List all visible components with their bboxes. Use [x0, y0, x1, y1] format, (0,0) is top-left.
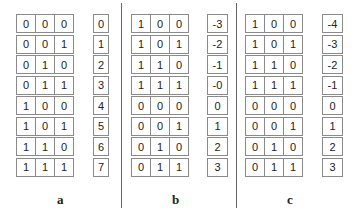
bit-row: 001 — [16, 35, 74, 54]
bit-cell: 0 — [169, 14, 189, 33]
bit-cell: 1 — [54, 158, 74, 177]
bit-cell: 1 — [283, 158, 303, 177]
value-box: 3 — [93, 76, 109, 95]
bit-row: 111 — [245, 76, 303, 95]
bit-cell: 0 — [264, 96, 283, 115]
bit-cell: 1 — [150, 137, 169, 156]
bit-cell: 1 — [264, 55, 283, 74]
bit-row: 000 — [16, 14, 74, 33]
bit-cell: 0 — [16, 35, 35, 54]
bit-cell: 1 — [16, 137, 35, 156]
bit-cell: 0 — [150, 14, 169, 33]
bit-row: 101 — [131, 35, 189, 54]
bit-cell: 0 — [283, 14, 303, 33]
bit-cell: 1 — [54, 35, 74, 54]
panel-label-c: c — [287, 192, 293, 208]
bit-cell: 1 — [264, 158, 283, 177]
bit-cell: 1 — [245, 35, 264, 54]
value-box: 5 — [93, 117, 109, 136]
bit-cell: 0 — [35, 14, 54, 33]
value-box: 3 — [322, 158, 343, 177]
value-box: 2 — [93, 55, 109, 74]
panel-label-a: a — [57, 192, 64, 208]
bit-row: 010 — [245, 137, 303, 156]
panel-label-b: b — [172, 192, 179, 208]
bit-row: 110 — [131, 55, 189, 74]
bit-cell: 0 — [169, 96, 189, 115]
divider-b-c — [236, 3, 237, 208]
value-box: 1 — [93, 35, 109, 54]
bit-cell: 0 — [54, 55, 74, 74]
bit-cell: 1 — [131, 14, 150, 33]
bit-row: 011 — [131, 158, 189, 177]
bit-cell: 0 — [169, 137, 189, 156]
bit-cell: 1 — [54, 76, 74, 95]
value-box: -1 — [322, 76, 343, 95]
bit-row: 001 — [131, 117, 189, 136]
bit-cell: 1 — [245, 14, 264, 33]
value-box: -2 — [322, 55, 343, 74]
bit-cell: 1 — [131, 76, 150, 95]
bit-cell: 1 — [150, 158, 169, 177]
bit-cell: 0 — [131, 158, 150, 177]
bit-grid-a: 000001010011100101110111 — [16, 14, 74, 178]
bit-cell: 1 — [169, 76, 189, 95]
bit-cell: 1 — [54, 117, 74, 136]
bit-cell: 0 — [54, 96, 74, 115]
value-box: 0 — [207, 96, 228, 115]
bit-cell: 1 — [150, 55, 169, 74]
bit-cell: 0 — [264, 117, 283, 136]
bit-row: 101 — [16, 117, 74, 136]
bit-cell: 0 — [245, 117, 264, 136]
bit-cell: 1 — [169, 158, 189, 177]
value-box: 3 — [207, 158, 228, 177]
bit-cell: 1 — [283, 76, 303, 95]
value-column-b: -3-2-1-00123 — [207, 14, 228, 178]
bit-cell: 1 — [35, 55, 54, 74]
bit-row: 011 — [16, 76, 74, 95]
bit-cell: 1 — [35, 76, 54, 95]
value-box: 0 — [93, 14, 109, 33]
bit-cell: 1 — [264, 76, 283, 95]
bit-cell: 0 — [283, 137, 303, 156]
bit-cell: 1 — [283, 35, 303, 54]
value-box: 6 — [93, 137, 109, 156]
bit-cell: 0 — [150, 96, 169, 115]
bit-cell: 0 — [283, 55, 303, 74]
bit-cell: 0 — [54, 137, 74, 156]
bit-cell: 0 — [150, 117, 169, 136]
bit-cell: 1 — [169, 117, 189, 136]
bit-row: 101 — [245, 35, 303, 54]
bit-cell: 0 — [16, 55, 35, 74]
value-column-c: -4-3-2-10123 — [322, 14, 343, 178]
bit-cell: 0 — [35, 35, 54, 54]
bit-cell: 0 — [54, 14, 74, 33]
bit-cell: 0 — [16, 14, 35, 33]
value-box: 1 — [322, 117, 343, 136]
bit-grid-c: 100101110111000001010011 — [245, 14, 303, 178]
bit-row: 100 — [245, 14, 303, 33]
bit-cell: 1 — [35, 137, 54, 156]
bit-cell: 1 — [16, 96, 35, 115]
bit-row: 100 — [131, 14, 189, 33]
bit-row: 010 — [16, 55, 74, 74]
value-box: -3 — [207, 14, 228, 33]
bit-cell: 0 — [150, 35, 169, 54]
bit-cell: 1 — [131, 55, 150, 74]
bit-cell: 1 — [16, 158, 35, 177]
value-box: 2 — [322, 137, 343, 156]
bit-cell: 0 — [245, 137, 264, 156]
value-box: -2 — [207, 35, 228, 54]
bit-grid-b: 100101110111000001010011 — [131, 14, 189, 178]
bit-cell: 1 — [131, 35, 150, 54]
bit-cell: 0 — [264, 35, 283, 54]
bit-row: 011 — [245, 158, 303, 177]
bit-cell: 0 — [283, 96, 303, 115]
bit-row: 001 — [245, 117, 303, 136]
bit-cell: 0 — [35, 96, 54, 115]
bit-cell: 0 — [169, 55, 189, 74]
bit-cell: 1 — [150, 76, 169, 95]
bit-cell: 0 — [131, 96, 150, 115]
value-box: -3 — [322, 35, 343, 54]
bit-row: 100 — [16, 96, 74, 115]
